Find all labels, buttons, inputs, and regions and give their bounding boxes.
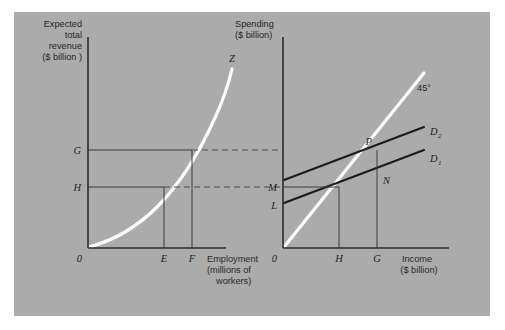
curve-d2	[284, 127, 424, 180]
left-origin-label: 0	[77, 253, 83, 264]
right-x-axis-label-line2: ($ billion)	[400, 265, 437, 275]
left-x-axis-label-line1: Employment	[207, 254, 259, 264]
left-y-tick-h-label: H	[72, 182, 82, 193]
right-origin-label: 0	[272, 253, 278, 264]
right-y-axis-label-line1: Spending	[235, 19, 274, 29]
curve-d2-sublabel: 2	[438, 132, 442, 140]
left-x-axis-label-line3: workers)	[215, 276, 251, 286]
point-p-label: P	[365, 136, 373, 147]
left-x-tick-e-label: E	[160, 253, 168, 264]
curve-d1-label-group: D 1	[429, 153, 442, 167]
left-x-tick-f-label: F	[188, 253, 196, 264]
economics-diagram: Expected total revenue ($ billion ) Z G …	[0, 0, 505, 330]
point-n-label: N	[382, 175, 391, 186]
curve-z	[89, 69, 232, 247]
right-y-intercept-l-label: L	[270, 200, 277, 211]
curve-45-degree-line	[284, 73, 424, 247]
curve-d1-sublabel: 1	[438, 159, 442, 167]
curve-d1-label: D	[429, 153, 438, 164]
left-y-axis-label-line2: total	[65, 30, 82, 40]
right-x-tick-g-label: G	[373, 253, 381, 264]
right-y-intercept-m-label: M	[267, 182, 278, 193]
left-x-axis-label-line2: (millions of	[207, 265, 251, 275]
ray-45-label: 45°	[417, 83, 431, 93]
curve-z-label: Z	[229, 53, 235, 64]
curve-d2-label-group: D 2	[429, 126, 442, 140]
left-y-axis-label-line1: Expected	[44, 19, 82, 29]
right-x-axis-label-line1: Income	[402, 254, 432, 264]
left-y-tick-g-label: G	[73, 145, 81, 156]
left-y-axis-label-line3: revenue	[49, 41, 82, 51]
curve-d2-label: D	[429, 126, 438, 137]
left-y-axis-label-line4: ($ billion )	[42, 52, 82, 62]
right-y-axis-label-line2: ($ billion)	[235, 30, 272, 40]
right-x-tick-h-label: H	[334, 253, 344, 264]
figure-root: Expected total revenue ($ billion ) Z G …	[0, 0, 505, 330]
